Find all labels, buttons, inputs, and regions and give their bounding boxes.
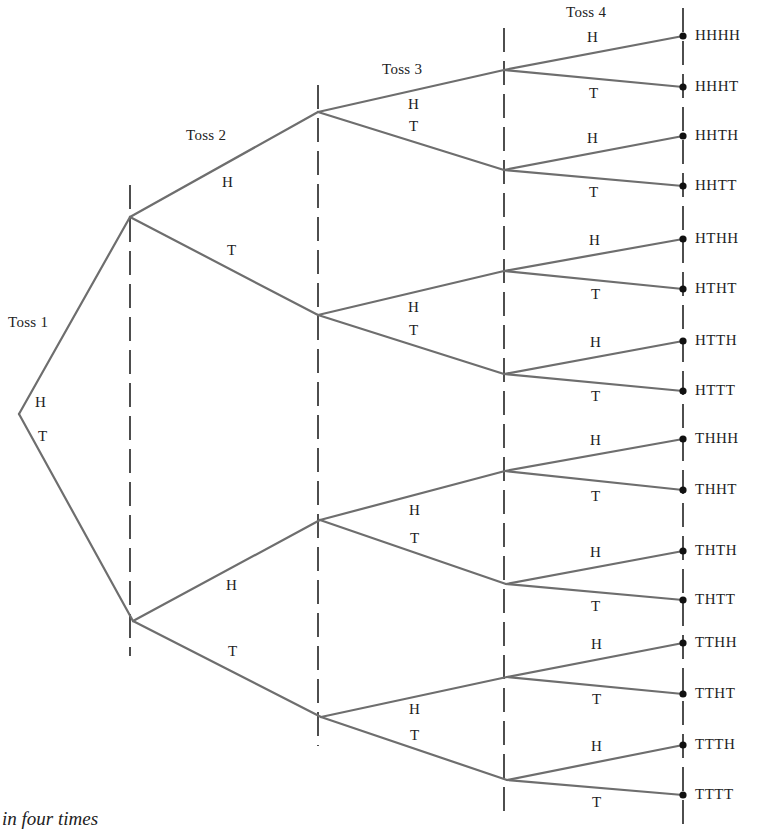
outcome-label-thhh: THHH [695,431,739,446]
leaf-dot-icon [679,337,686,344]
outcome-label-thtt: THTT [695,592,735,607]
leaf-dot-icon [679,547,686,554]
leaf-dot-icon [679,387,686,394]
outcome-label-ttht: TTHT [695,686,735,701]
branch-label-heads: H [591,739,602,754]
figure-caption: in four times [2,808,98,830]
branch-label-heads: H [587,30,598,45]
branch-label-tails: T [591,287,600,302]
branch-label-tails: T [409,119,418,134]
leaf-dot-icon [679,690,686,697]
branch-label-tails: T [410,728,419,743]
leaf-dot-icon [679,182,686,189]
outcome-label-hhtt: HHTT [695,178,737,193]
leaf-dot-icon [679,285,686,292]
branch-label-heads: H [590,433,601,448]
branch-label-tails: T [228,644,237,659]
branch-H-to-HT [130,217,318,315]
leaf-dot-icon [679,791,686,798]
branch-label-tails: T [589,86,598,101]
branch-T-to-TT [133,621,321,717]
leaf-dot-icon [679,235,686,242]
outcome-label-httt: HTTT [695,383,735,398]
leaf-dot-icon [679,32,686,39]
leaf-dot-icon [679,83,686,90]
leaf-dot-icon [679,596,686,603]
coin-toss-tree-diagram [0,0,757,832]
branch-label-tails: T [410,531,419,546]
outcome-label-ttth: TTTH [695,737,735,752]
leaf-dot-icon [679,132,686,139]
branch-label-heads: H [226,578,237,593]
branch-label-tails: T [227,243,236,258]
branch-label-tails: T [591,489,600,504]
branch-label-heads: H [587,131,598,146]
leaf-dot-icon [679,639,686,646]
branch-label-heads: H [589,233,600,248]
branch-label-tails: T [591,389,600,404]
stage-label-toss-2: Toss 2 [186,128,226,143]
branch-label-tails: T [409,323,418,338]
branch-label-heads: H [590,335,601,350]
outcome-label-htht: HTHT [695,281,737,296]
branch-label-heads: H [408,97,419,112]
branch-label-heads: H [408,300,419,315]
branch-TTT-to-TTTT [507,780,683,795]
branch-T-to-TH [133,520,320,621]
branch-label-heads: H [590,545,601,560]
branch-label-tails: T [589,185,598,200]
stage-label-toss-3: Toss 3 [382,62,422,77]
outcome-label-htth: HTTH [695,333,737,348]
branch-root-to-T [19,414,133,621]
branch-label-tails: T [591,599,600,614]
outcome-label-thht: THHT [695,482,737,497]
tree-branches [19,36,683,795]
branch-label-heads: H [35,395,46,410]
outcome-label-hhht: HHHT [695,79,739,94]
stage-label-toss-1: Toss 1 [8,315,48,330]
branch-label-tails: T [592,795,601,810]
branch-label-tails: T [592,692,601,707]
leaf-dot-icon [679,486,686,493]
branch-label-heads: H [409,503,420,518]
outcome-label-thth: THTH [695,543,737,558]
branch-label-heads: H [222,175,233,190]
outcome-label-tthh: TTHH [695,635,737,650]
outcome-label-hthh: HTHH [695,231,739,246]
outcome-label-hhth: HHTH [695,128,739,143]
branch-label-tails: T [38,429,47,444]
leaf-dot-icon [679,435,686,442]
stage-label-toss-4: Toss 4 [566,5,606,20]
branch-label-heads: H [409,702,420,717]
branch-label-heads: H [591,637,602,652]
outcome-label-tttt: TTTT [695,787,734,802]
leaf-dot-icon [679,741,686,748]
outcome-label-hhhh: HHHH [695,28,740,43]
